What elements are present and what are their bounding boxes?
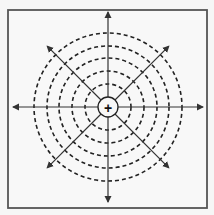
radial-field-diagram: + — [0, 0, 214, 215]
plus-sign-icon: + — [104, 100, 112, 116]
